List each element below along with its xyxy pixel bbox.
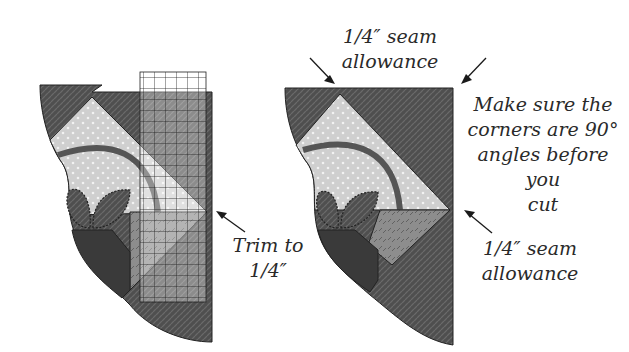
left-block [40, 72, 212, 342]
seam-callout-bottom-line2: allowance [470, 261, 590, 286]
seam-callout-top: 1/4″ seam allowance [330, 24, 450, 74]
trim-arrow [216, 211, 245, 232]
right-block [285, 88, 453, 345]
trim-callout: Trim to 1/4″ [228, 233, 308, 283]
seam-callout-top-line2: allowance [330, 49, 450, 74]
seam-callout-bottom-line1: 1/4″ seam [470, 236, 590, 261]
corners-callout-line4: cut [462, 192, 624, 217]
seam-callout-bottom: 1/4″ seam allowance [470, 236, 590, 286]
corners-callout: Make sure the corners are 90° angles bef… [462, 92, 624, 217]
seam-callout-top-line1: 1/4″ seam [330, 24, 450, 49]
seam-arrow-top-right [461, 58, 486, 84]
trim-callout-line2: 1/4″ [228, 258, 308, 283]
trim-callout-line1: Trim to [228, 233, 308, 258]
corners-callout-line2: corners are 90° [462, 117, 624, 142]
corners-callout-line1: Make sure the [462, 92, 624, 117]
corners-callout-line3: angles before you [462, 142, 624, 192]
ruler-grid [140, 72, 206, 302]
